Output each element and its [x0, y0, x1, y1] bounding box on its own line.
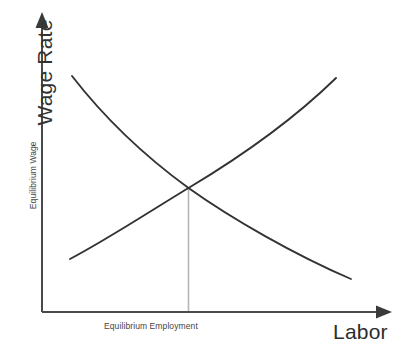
- chart-canvas: [0, 0, 414, 355]
- x-axis-equilibrium-employment-label: Equilibrium Employment: [104, 322, 198, 331]
- x-axis-title: Labor: [333, 321, 388, 342]
- y-axis-title: Wage Rate: [34, 13, 55, 133]
- y-axis-equilibrium-wage-label: Equilibrium Wage: [29, 129, 38, 221]
- labor-market-diagram: Wage Rate Equilibrium Wage Equilibrium E…: [0, 0, 414, 355]
